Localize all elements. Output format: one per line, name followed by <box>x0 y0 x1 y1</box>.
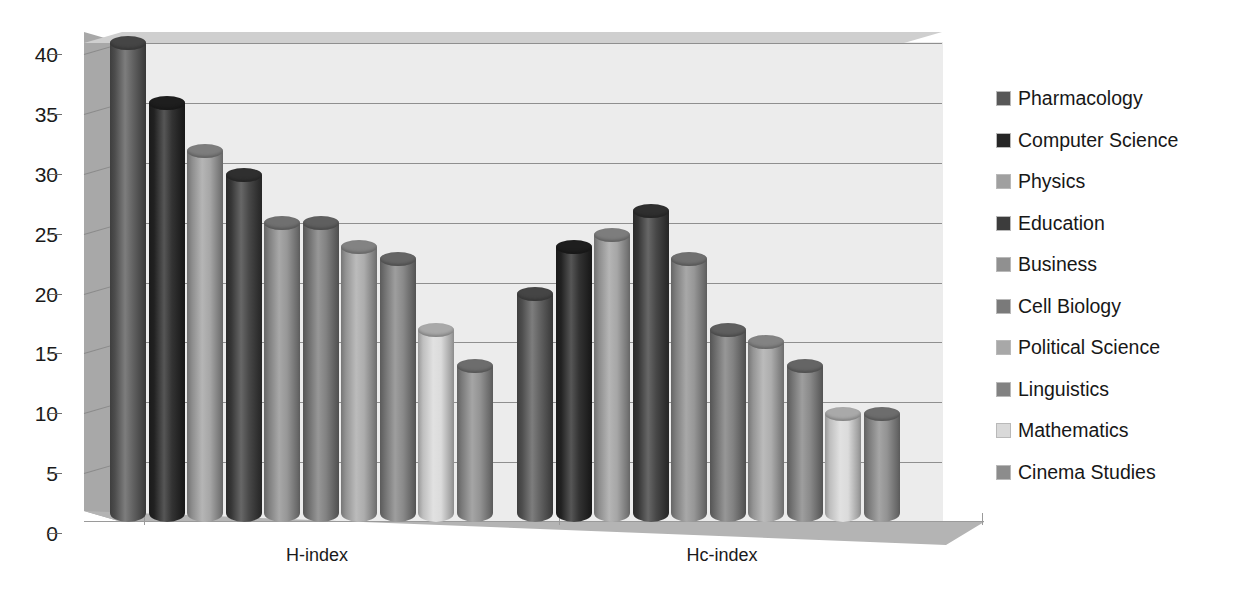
y-axis-tick <box>48 413 62 414</box>
cylinder-top <box>864 407 900 421</box>
cylinder-body <box>341 247 377 522</box>
bar-cell-biology-h-index <box>303 216 339 522</box>
bar-cell-biology-hc-index <box>710 323 746 522</box>
cylinder-top <box>110 36 146 50</box>
legend-swatch-icon <box>996 423 1011 438</box>
cylinder-top <box>594 228 630 242</box>
bar-linguistics-h-index <box>380 252 416 522</box>
cylinder-top <box>380 252 416 266</box>
x-axis-tick-label: H-index <box>286 545 348 566</box>
y-axis-tick <box>48 353 62 354</box>
legend-swatch-icon <box>996 299 1011 314</box>
legend-item[interactable]: Mathematics <box>996 410 1253 452</box>
legend-label: Cinema Studies <box>1018 463 1156 483</box>
cylinder-top <box>556 240 592 254</box>
cylinder-body <box>380 259 416 522</box>
bar-pharmacology-h-index <box>110 36 146 522</box>
legend-swatch-icon <box>996 465 1011 480</box>
cylinder-body <box>264 223 300 522</box>
bar-political-science-hc-index <box>748 335 784 522</box>
bar-computer-science-hc-index <box>556 240 592 522</box>
y-axis-tick <box>48 294 62 295</box>
legend-item[interactable]: Linguistics <box>996 369 1253 411</box>
bar-physics-h-index <box>187 144 223 522</box>
legend-label: Education <box>1018 214 1105 234</box>
y-axis-tick <box>48 473 62 474</box>
cylinder-body <box>594 235 630 522</box>
legend-swatch-icon <box>996 257 1011 272</box>
y-axis-tick <box>48 54 62 55</box>
cylinder-top <box>303 216 339 230</box>
cylinder-body <box>787 366 823 522</box>
cylinder-top <box>187 144 223 158</box>
gridline <box>122 43 942 44</box>
plot-wall-top <box>84 32 942 43</box>
legend-label: Linguistics <box>1018 380 1109 400</box>
cylinder-top <box>633 204 669 218</box>
bar-business-hc-index <box>671 252 707 522</box>
cylinder-body <box>864 414 900 522</box>
x-axis-tick <box>982 513 983 525</box>
legend-swatch-icon <box>996 216 1011 231</box>
bar-mathematics-hc-index <box>825 407 861 522</box>
gridline <box>122 163 942 164</box>
legend-item[interactable]: Pharmacology <box>996 78 1253 120</box>
bar-cinema-studies-hc-index <box>864 407 900 522</box>
cylinder-body <box>303 223 339 522</box>
y-axis-tick <box>48 234 62 235</box>
legend-label: Pharmacology <box>1018 89 1143 109</box>
legend-label: Mathematics <box>1018 421 1129 441</box>
legend-swatch-icon <box>996 133 1011 148</box>
cylinder-body <box>187 151 223 522</box>
cylinder-body <box>517 294 553 522</box>
bar-political-science-h-index <box>341 240 377 522</box>
bar-education-h-index <box>226 168 262 522</box>
y-axis-labels: 4035302520151050 <box>0 32 58 532</box>
legend-swatch-icon <box>996 174 1011 189</box>
bar-business-h-index <box>264 216 300 522</box>
legend-item[interactable]: Computer Science <box>996 120 1253 162</box>
y-axis-tick <box>48 114 62 115</box>
cylinder-body <box>110 43 146 522</box>
legend-swatch-icon <box>996 340 1011 355</box>
cylinder-top <box>149 96 185 110</box>
bar-computer-science-h-index <box>149 96 185 522</box>
y-axis-tick <box>48 174 62 175</box>
legend-label: Computer Science <box>1018 131 1178 151</box>
gridline <box>122 103 942 104</box>
bar-linguistics-hc-index <box>787 359 823 522</box>
cylinder-top <box>341 240 377 254</box>
legend-swatch-icon <box>996 91 1011 106</box>
cylinder-body <box>748 342 784 522</box>
y-axis-tick <box>48 533 62 534</box>
cylinder-body <box>457 366 493 522</box>
legend-item[interactable]: Cinema Studies <box>996 452 1253 494</box>
cylinder-top <box>264 216 300 230</box>
cylinder-body <box>710 330 746 522</box>
legend-label: Cell Biology <box>1018 297 1121 317</box>
legend-item[interactable]: Cell Biology <box>996 286 1253 328</box>
cylinder-top <box>671 252 707 266</box>
legend-label: Political Science <box>1018 338 1160 358</box>
cylinder-body <box>633 211 669 522</box>
cylinder-body <box>556 247 592 522</box>
bar-education-hc-index <box>633 204 669 522</box>
cylinder-body <box>149 103 185 522</box>
bar-mathematics-h-index <box>418 323 454 522</box>
legend-item[interactable]: Physics <box>996 161 1253 203</box>
bar-cinema-studies-h-index <box>457 359 493 522</box>
plot-area <box>62 32 942 532</box>
legend-item[interactable]: Political Science <box>996 327 1253 369</box>
legend-label: Physics <box>1018 172 1085 192</box>
chart-legend: PharmacologyComputer SciencePhysicsEduca… <box>996 78 1253 493</box>
legend-label: Business <box>1018 255 1097 275</box>
legend-item[interactable]: Business <box>996 244 1253 286</box>
bar-pharmacology-hc-index <box>517 287 553 522</box>
legend-item[interactable]: Education <box>996 203 1253 245</box>
cylinder-top <box>226 168 262 182</box>
bar-physics-hc-index <box>594 228 630 522</box>
x-axis-tick-label: Hc-index <box>686 545 757 566</box>
cylinder-body <box>418 330 454 522</box>
cylinder-body <box>226 175 262 522</box>
cylinder-body <box>671 259 707 522</box>
